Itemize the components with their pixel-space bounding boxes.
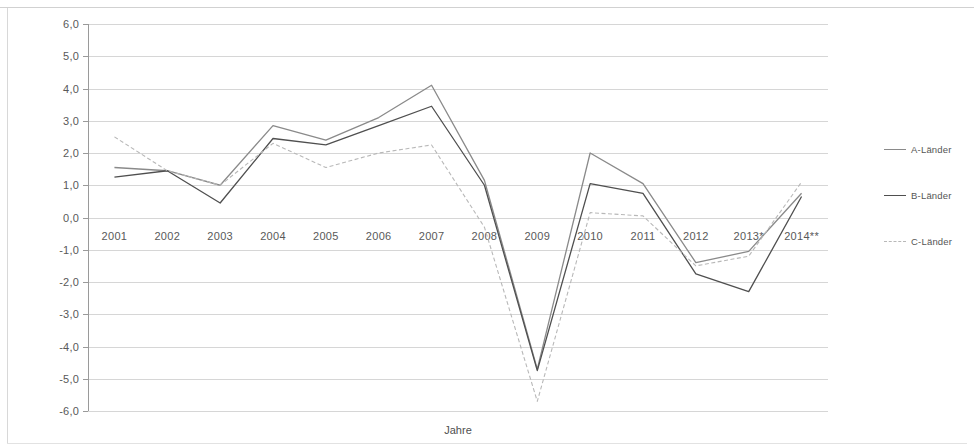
legend-item-b-l-nder[interactable]: B-Länder (884, 188, 970, 202)
chart-figure: 6,05,04,03,02,01,00,0-1,0-2,0-3,0-4,0-5,… (0, 0, 974, 446)
y-axis-tick-label: -6,0 (59, 405, 79, 417)
y-axis-tick-label: 5,0 (63, 50, 79, 62)
series-line (114, 85, 801, 369)
legend-swatch-icon (884, 241, 906, 242)
legend-swatch-icon (884, 195, 906, 196)
y-axis-tick-label: -1,0 (59, 244, 79, 256)
y-axis-tick (83, 411, 88, 412)
page-top-rule (0, 7, 974, 8)
y-axis-tick-label: -3,0 (59, 308, 79, 320)
plot-area: 6,05,04,03,02,01,00,0-1,0-2,0-3,0-4,0-5,… (88, 24, 828, 411)
page-left-rule (7, 8, 8, 444)
y-axis-tick-label: 6,0 (63, 18, 79, 30)
legend-item-c-l-nder[interactable]: C-Länder (884, 234, 970, 248)
y-axis-tick-label: 1,0 (63, 179, 79, 191)
series-line (114, 106, 801, 370)
legend-item-label: B-Länder (911, 190, 952, 201)
page-bottom-rule (7, 443, 967, 444)
legend-item-label: A-Länder (911, 144, 952, 155)
y-axis-tick-label: 4,0 (63, 83, 79, 95)
legend-item-label: C-Länder (911, 236, 952, 247)
gridline (88, 411, 828, 412)
legend-item-a-l-nder[interactable]: A-Länder (884, 142, 970, 156)
y-axis-tick-label: 0,0 (63, 212, 79, 224)
y-axis-tick-label: -2,0 (59, 276, 79, 288)
y-axis-tick-label: -5,0 (59, 373, 79, 385)
y-axis-tick-label: 3,0 (63, 115, 79, 127)
chart-legend: A-LänderB-LänderC-Länder (884, 142, 970, 280)
series-lines (88, 24, 828, 411)
legend-swatch-icon (884, 149, 906, 150)
x-axis-title: Jahre (88, 424, 828, 436)
y-axis-tick-label: -4,0 (59, 341, 79, 353)
series-line (114, 137, 801, 401)
y-axis-tick-label: 2,0 (63, 147, 79, 159)
